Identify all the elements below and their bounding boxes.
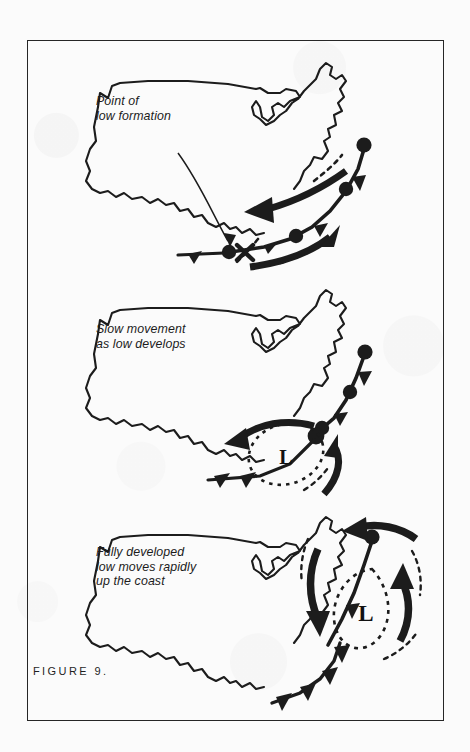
inflow-arrow-southeast: [324, 434, 339, 494]
cold-front-west: [178, 251, 224, 264]
warm-front-bump: [339, 182, 353, 196]
warm-front-bump: [356, 137, 371, 152]
cold-front-barb: [358, 371, 372, 386]
low-pressure-label: L: [358, 601, 373, 626]
occluded-front: [315, 344, 373, 435]
panel-formation: [28, 41, 445, 268]
circulation-arrow-east: [390, 563, 414, 641]
arrow-head: [342, 517, 368, 541]
leader-arrow-head: [224, 233, 236, 247]
cold-front-barb: [240, 472, 256, 488]
panel-developing: L: [28, 268, 445, 495]
arrow-head: [390, 563, 414, 589]
us-map-outline: [86, 290, 346, 462]
outflow-arrow-west: [244, 171, 346, 223]
arrow-head: [244, 197, 274, 223]
occluded-front: [328, 529, 380, 645]
warm-front-bump: [289, 229, 303, 243]
caption-mature: Fully developed low moves rapidly up the…: [96, 545, 196, 589]
caption-developing: Slow movement as low develops: [96, 322, 186, 351]
warm-front-bump: [357, 344, 372, 359]
cold-front-barb: [334, 412, 348, 426]
cold-front: [272, 643, 350, 711]
cold-front-barb: [214, 473, 230, 488]
outflow-arrow-west: [224, 422, 314, 450]
figure-number-label: FIGURE 9.: [33, 665, 108, 677]
arrow-head: [306, 611, 330, 637]
us-map-outline: [86, 63, 346, 235]
cold-front-barb: [352, 175, 366, 191]
figure-frame: L: [27, 40, 444, 721]
panel-mature: L: [28, 495, 445, 722]
caption-leader-line: [178, 153, 228, 241]
cold-front-barb: [276, 693, 292, 711]
caption-formation: Point of low formation: [96, 94, 171, 123]
dashed-trough: [304, 468, 328, 490]
arrow-head: [224, 428, 250, 450]
low-pressure-label: L: [279, 446, 292, 468]
arrow-head: [324, 434, 338, 458]
warm-front-bump: [343, 385, 357, 399]
